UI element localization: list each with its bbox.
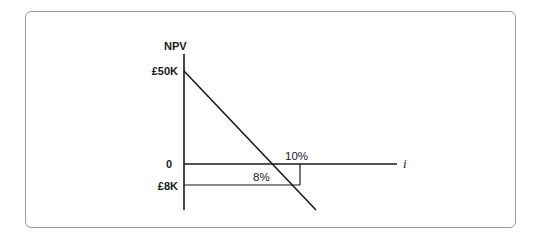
- npv-profile-line: [184, 71, 316, 210]
- y-tick-label-8k: £8K: [158, 180, 178, 192]
- annotation-8-percent: 8%: [253, 171, 270, 183]
- y-axis-label: NPV: [164, 40, 187, 52]
- y-tick-label-50k: £50K: [152, 65, 178, 77]
- x-axis-label: i: [403, 156, 407, 171]
- npv-diagram: NPV £50K 0 £8K 8% 10% i: [0, 0, 537, 236]
- annotation-10-percent: 10%: [285, 150, 308, 162]
- y-tick-label-zero: 0: [166, 158, 172, 170]
